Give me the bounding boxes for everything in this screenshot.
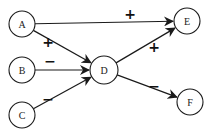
- node-d: D: [90, 56, 118, 84]
- node-label: C: [19, 110, 26, 121]
- node-label: E: [184, 16, 190, 27]
- positive-sign: +: [42, 34, 54, 50]
- node-b: B: [9, 57, 35, 83]
- arrow-line: [117, 75, 177, 97]
- negative-sign: −: [42, 91, 54, 107]
- edge-b-d: −: [35, 53, 89, 70]
- node-a: A: [9, 11, 35, 37]
- edge-c-d: −: [33, 77, 90, 109]
- edge-a-e: +: [35, 6, 173, 24]
- edge-d-f: −: [117, 75, 177, 97]
- arrow-line: [116, 28, 175, 63]
- negative-sign: −: [44, 53, 56, 69]
- edge-d-e: +: [116, 28, 175, 63]
- node-c: C: [9, 102, 35, 128]
- node-label: F: [187, 97, 193, 108]
- node-e: E: [174, 8, 200, 34]
- edge-a-d: +: [33, 30, 91, 62]
- positive-sign: +: [124, 6, 136, 22]
- arrow-line: [35, 21, 173, 24]
- causal-diagram: ++−−+− ABCDEF: [0, 0, 210, 130]
- positive-sign: +: [148, 39, 160, 55]
- negative-sign: −: [148, 78, 160, 94]
- nodes: ABCDEF: [9, 8, 203, 128]
- node-f: F: [177, 89, 203, 115]
- node-label: B: [19, 65, 26, 76]
- node-label: D: [100, 65, 107, 76]
- node-label: A: [18, 19, 26, 30]
